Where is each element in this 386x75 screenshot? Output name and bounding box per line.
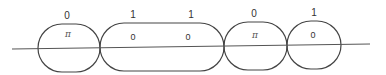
top-label: 1 (188, 9, 194, 20)
top-label: 0 (251, 8, 257, 19)
segment-4: 10 (287, 7, 341, 69)
segment-3: 0π (224, 8, 287, 70)
segment-chain-diagram: 0π11000π10 (0, 0, 386, 75)
inner-label: 0 (130, 32, 135, 42)
segment-1: 0π (38, 10, 100, 72)
inner-label: 0 (310, 30, 315, 40)
segment-2: 1100 (100, 9, 224, 71)
top-label: 1 (130, 9, 136, 20)
horizontal-axis-line (12, 44, 370, 49)
inner-label: 0 (185, 32, 190, 42)
top-label: 0 (64, 10, 70, 21)
pi-label: π (64, 29, 72, 39)
diagram-svg: 0π11000π10 (0, 0, 386, 75)
pi-label: π (251, 30, 259, 40)
top-label: 1 (311, 7, 317, 18)
